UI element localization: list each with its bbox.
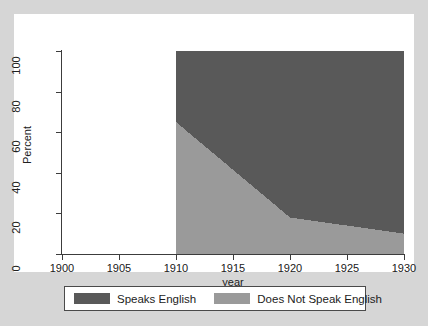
x-tick-1905: [119, 255, 120, 260]
x-tick-1915: [233, 255, 234, 260]
legend-entry-does-not-speak-english[interactable]: Does Not Speak English: [214, 287, 382, 310]
legend-swatch-speaks-english: [74, 293, 110, 304]
plot-region: [62, 51, 404, 254]
x-tick-label-1920: 1920: [270, 262, 310, 274]
y-tick-label-100: 100: [11, 52, 22, 80]
x-tick-label-1910: 1910: [156, 262, 196, 274]
area-chart-svg: [62, 51, 404, 254]
y-tick-40: [56, 173, 61, 174]
y-tick-label-0: 0: [11, 255, 22, 283]
legend-entry-speaks-english[interactable]: Speaks English: [74, 287, 196, 310]
legend-swatch-does-not-speak-english: [214, 293, 250, 304]
x-tick-1910: [176, 255, 177, 260]
y-tick-0: [56, 254, 61, 255]
y-tick-20: [56, 213, 61, 214]
x-tick-label-1915: 1915: [213, 262, 253, 274]
x-tick-1930: [404, 255, 405, 260]
area-series-group: [176, 51, 404, 254]
y-tick-80: [56, 92, 61, 93]
x-tick-label-1925: 1925: [327, 262, 367, 274]
y-tick-60: [56, 132, 61, 133]
x-tick-1900: [62, 255, 63, 260]
x-tick-label-1900: 1900: [42, 262, 82, 274]
legend-label-speaks-english: Speaks English: [117, 293, 196, 305]
y-tick-label-60: 60: [11, 133, 22, 161]
legend-label-does-not-speak-english: Does Not Speak English: [257, 293, 382, 305]
y-tick-label-40: 40: [11, 174, 22, 202]
x-tick-label-1930: 1930: [384, 262, 424, 274]
graph-panel: 0 20 40 60 80 100 1900 1905 1910 1915 19…: [14, 14, 414, 272]
x-tick-1925: [347, 255, 348, 260]
chart-legend: Speaks English Does Not Speak English: [64, 286, 366, 311]
y-axis-title: Percent: [21, 115, 33, 175]
y-tick-100: [56, 51, 61, 52]
y-axis-line: [61, 50, 62, 255]
y-tick-label-20: 20: [11, 214, 22, 242]
x-tick-label-1905: 1905: [99, 262, 139, 274]
y-tick-label-80: 80: [11, 93, 22, 121]
x-tick-1920: [290, 255, 291, 260]
figure-container: 0 20 40 60 80 100 1900 1905 1910 1915 19…: [0, 0, 428, 326]
